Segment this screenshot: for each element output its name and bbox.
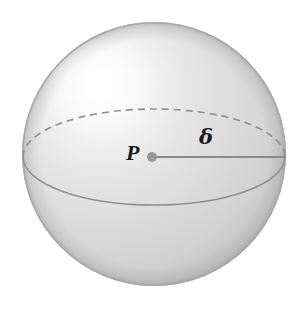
specular-highlight <box>38 33 162 137</box>
center-dot <box>147 152 157 162</box>
sphere-illustration <box>0 0 302 313</box>
radius-length-label: δ <box>199 126 213 147</box>
center-point-label: P <box>126 142 139 164</box>
sphere-figure: P δ <box>0 0 302 313</box>
